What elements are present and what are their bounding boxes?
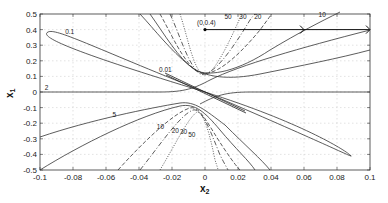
y-tick-label: -0.1 — [23, 104, 37, 113]
x-tick-label: 0 — [203, 173, 208, 182]
x-tick-label: -0.08 — [64, 173, 83, 182]
contour-label: 10 — [319, 11, 327, 18]
contour-label: 10 — [157, 123, 165, 130]
contour-labels: 0.10.01251020305050302010 — [45, 11, 326, 138]
y-axis-label: x1 — [4, 88, 16, 98]
contour-label: 50 — [224, 13, 232, 20]
x-tick-label: 0.02 — [230, 173, 246, 182]
x-tick-label: 0.06 — [296, 173, 312, 182]
x-tick-labels: -0.1-0.08-0.06-0.04-0.0200.020.040.060.0… — [33, 173, 376, 182]
x-tick-label: 0.04 — [263, 173, 279, 182]
contour-label: 0.01 — [159, 66, 172, 73]
contour-label: 2 — [45, 84, 49, 91]
y-tick-label: -0.5 — [23, 166, 37, 175]
x-axis-label: x2 — [200, 183, 210, 195]
contour-label: 20 — [254, 13, 262, 20]
contour-0.1 — [46, 31, 351, 156]
contour-5-lower — [40, 103, 270, 170]
contour-label: 5 — [112, 111, 116, 118]
trajectory-arrow — [205, 26, 370, 34]
contour-label: 30 — [239, 13, 247, 20]
x-tick-label: -0.04 — [130, 173, 149, 182]
y-tick-label: -0.4 — [23, 150, 37, 159]
y-tick-label: 0 — [33, 88, 38, 97]
contour-label: 50 — [188, 131, 196, 138]
contour-label: 20 — [172, 127, 180, 134]
contour-label: 30 — [180, 128, 188, 135]
contour-50-lower — [160, 112, 218, 170]
x-tick-label: -0.06 — [97, 173, 116, 182]
contour-2-right — [200, 92, 370, 104]
x-tick-label: 0.08 — [329, 173, 345, 182]
y-tick-label: -0.3 — [23, 135, 37, 144]
y-tick-label: -0.2 — [23, 119, 37, 128]
y-tick-label: 0.1 — [26, 72, 38, 81]
y-tick-label: 0.4 — [26, 26, 38, 35]
y-tick-label: 0.2 — [26, 57, 38, 66]
x-tick-label: 0.1 — [364, 173, 376, 182]
y-tick-label: 0.5 — [26, 10, 38, 19]
contour-30-lower — [140, 110, 228, 170]
contour-10-upper — [150, 12, 340, 73]
start-point-marker — [203, 28, 206, 31]
y-tick-labels: -0.5-0.4-0.3-0.2-0.100.10.20.30.40.5 — [23, 10, 37, 175]
start-point-annotation: (0,0.4) — [197, 19, 216, 27]
x-tick-label: -0.02 — [163, 173, 182, 182]
y-tick-label: 0.3 — [26, 41, 38, 50]
contour-label: 0.1 — [65, 28, 74, 35]
contour-chart: -0.1-0.08-0.06-0.04-0.0200.020.040.060.0… — [0, 0, 388, 203]
